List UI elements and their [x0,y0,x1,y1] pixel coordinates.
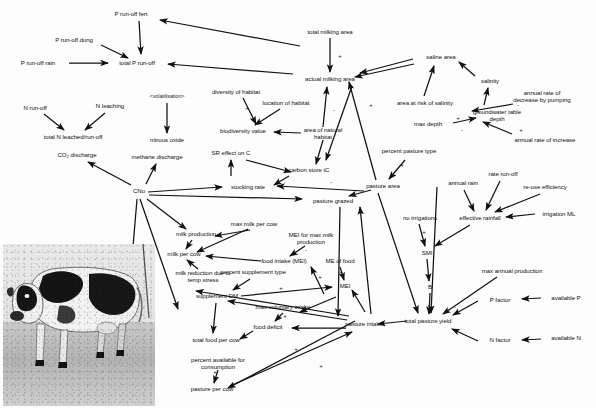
diagram-canvas: P run-off fertP run-off dungP run-off ra… [0,0,596,408]
node-co2_discharge[interactable]: CO₂ discharge [58,151,97,158]
node-salinity[interactable]: salinity [481,77,499,84]
node-location_habitat[interactable]: location of habitat [263,99,310,106]
node-n_runoff[interactable]: N run-off [23,104,46,111]
node-total_n_leached[interactable]: total N leached/run-off [44,133,103,140]
node-irrigation_ml[interactable]: irrigation ML [543,210,576,217]
polarity-sign: + [456,115,460,121]
node-cno[interactable]: CNo [133,187,145,194]
node-volatilisation[interactable]: <volatilisation> [150,93,185,100]
polarity-sign: + [369,102,373,108]
node-me_of_food[interactable]: ME of food [326,257,355,264]
polarity-sign: - [330,179,332,185]
node-no_irrigations[interactable]: no irrigations [403,214,437,221]
polarity-sign: + [213,369,217,375]
polarity-sign: + [422,229,426,235]
polarity-sign: + [319,363,323,369]
polarity-sign: + [338,53,342,59]
node-milk_production[interactable]: milk production [176,230,216,237]
polarity-sign: - [305,247,307,253]
node-p_runoff_fert[interactable]: P run-off fert [115,10,148,17]
node-carbon_store[interactable]: carbon store tC [289,166,330,173]
node-b_node[interactable]: B [428,283,432,290]
node-reuse_efficiency[interactable]: re-use efficiency [523,183,566,190]
node-rate_runoff[interactable]: rate run-off [488,170,517,177]
node-smi[interactable]: SMI [422,249,433,256]
node-sr_effect_c[interactable]: SR effect on C [212,149,251,156]
polarity-sign: + [294,346,298,352]
node-pasture_per_cow[interactable]: pasture per cow [191,385,234,392]
node-annual_rate_increase[interactable]: annual rate of increase [515,136,576,143]
polarity-sign: + [339,269,343,275]
polarity-sign: - [333,107,335,113]
polarity-sign: - [461,127,463,133]
node-available_p[interactable]: available P [551,294,580,301]
node-mei_max_milk[interactable]: MEI for max milk production [282,231,340,246]
node-saline_area[interactable]: saline area [426,53,455,60]
node-max_voluntary_intake[interactable]: max voluntary intake [256,303,311,310]
node-annual_rain[interactable]: annual rain [448,179,478,186]
node-mei[interactable]: MEI [340,282,351,289]
node-stocking_rate[interactable]: stocking rate [231,183,265,190]
node-percent_available[interactable]: percent available for consumption [185,356,251,371]
node-p_runoff_rain[interactable]: P run-off rain [21,59,55,66]
node-pasture_intake[interactable]: pasture intake [345,320,383,327]
node-actual_milking_area[interactable]: actual milking area [305,75,355,82]
node-n_factor[interactable]: N factor [490,336,511,343]
node-area_natural_habitat[interactable]: area of natural habitat [294,126,352,141]
polarity-sign: - [454,304,456,310]
polarity-sign: + [283,313,287,319]
node-total_milking_area[interactable]: total milking area [307,28,352,35]
node-n_leaching[interactable]: N leaching [96,102,124,109]
polarity-sign: + [279,285,283,291]
node-methane_discharge[interactable]: methane discharge [132,153,183,160]
node-pasture_area[interactable]: pasture area [366,182,400,189]
node-max_depth[interactable]: max depth [414,120,442,127]
node-supplement_dm[interactable]: supplement DM [196,292,238,299]
node-p_runoff_dung[interactable]: P run-off dung [55,36,93,43]
node-total_pasture_yield[interactable]: total pasture yield [405,317,452,324]
node-diversity_habitat[interactable]: diversity of habitat [212,88,260,95]
polarity-sign: + [245,105,249,111]
node-percent_supplement[interactable]: percent supplement type [220,268,286,275]
node-available_n[interactable]: available N [551,334,581,341]
node-max_annual_production[interactable]: max annual production [482,267,543,274]
node-annual_decrease_pump[interactable]: annual rate of decrease by pumping [513,89,571,104]
node-pasture_grazed[interactable]: pasture grazed [313,197,353,204]
node-biodiversity_value[interactable]: biodiversity value [220,127,266,134]
node-max_milk_per_cow[interactable]: max milk per cow [231,220,277,227]
node-total_food_per_cow[interactable]: total food per cow [192,336,239,343]
node-food_intake_mei[interactable]: food intake (MEI) [261,257,307,264]
node-food_deficit[interactable]: food deficit [254,323,283,330]
node-milk_per_cow[interactable]: milk per cow [167,250,200,257]
node-total_p_runoff[interactable]: total P run-off [119,59,155,66]
polarity-sign: + [400,162,404,168]
node-p_factor[interactable]: P factor [490,296,511,303]
polarity-sign: + [318,274,322,280]
node-nitrous_oxide[interactable]: nitrous oxide [150,136,184,143]
node-effective_rainfall[interactable]: effective rainfall [459,214,500,221]
polarity-sign: - [517,102,519,108]
holstein-cow-photograph [3,244,155,406]
node-percent_pasture_type[interactable]: percent pasture type [380,147,438,154]
node-area_risk_salinity[interactable]: area at risk of salinity [397,99,453,106]
polarity-sign: + [519,127,523,133]
node-groundwater_depth[interactable]: groundwater table depth [468,108,526,123]
